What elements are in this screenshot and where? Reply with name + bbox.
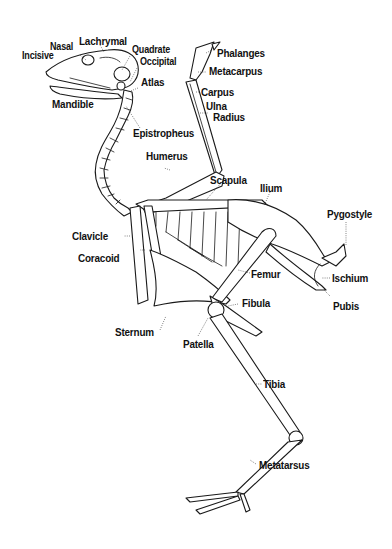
femur-bone [212,229,276,302]
label-radius: Radius [213,111,245,123]
cervical-vertebrae [95,90,133,216]
label-coracoid: Coracoid [78,252,119,264]
label-clavicle: Clavicle [72,230,108,242]
label-femur: Femur [251,268,280,280]
label-pubis: Pubis [333,300,359,312]
label-mandible: Mandible [52,98,93,110]
leg [186,229,303,514]
label-humerus: Humerus [146,150,188,162]
label-pygostyle: Pygostyle [327,208,372,220]
label-ilium: Ilium [260,182,282,194]
label-metatarsus: Metatarsus [259,459,309,471]
label-sternum: Sternum [115,326,154,338]
label-quadrate: Quadrate [132,44,170,55]
label-tibia: Tibia [263,378,285,390]
label-atlas: Atlas [141,76,164,88]
label-metacarpus: Metacarpus [209,65,262,77]
label-lachrymal: Lachrymal [79,35,127,47]
label-phalanges: Phalanges [217,47,265,59]
label-fibula: Fibula [242,297,270,309]
label-occipital: Occipital [140,56,176,67]
label-nasal: Nasal [50,41,73,52]
label-patella: Patella [183,338,214,350]
label-carpus: Carpus [201,86,234,98]
label-scapula: Scapula [210,174,247,186]
label-ischium: Ischium [332,272,368,284]
label-incisive: Incisive [22,50,54,61]
label-epistropheus: Epistropheus [133,127,194,139]
clavicle-bone [130,206,148,304]
